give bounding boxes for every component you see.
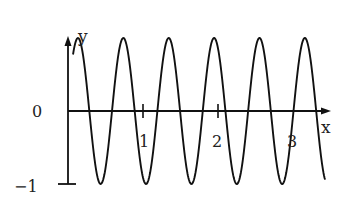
x-tick-label-3: 3 (287, 132, 297, 151)
x-tick-label-2: 2 (212, 132, 222, 151)
y-tick-label-zero: 0 (32, 102, 42, 121)
x-axis-arrow-icon (321, 108, 331, 115)
y-axis-label: y (77, 26, 88, 46)
y-tick-label-neg-one: −1 (14, 177, 38, 196)
sine-wave-chart: y x 0 −1 1 2 3 (0, 0, 355, 199)
x-axis-label: x (321, 117, 331, 137)
y-axis-arrow-icon (65, 36, 72, 46)
x-tick-label-1: 1 (139, 132, 149, 151)
